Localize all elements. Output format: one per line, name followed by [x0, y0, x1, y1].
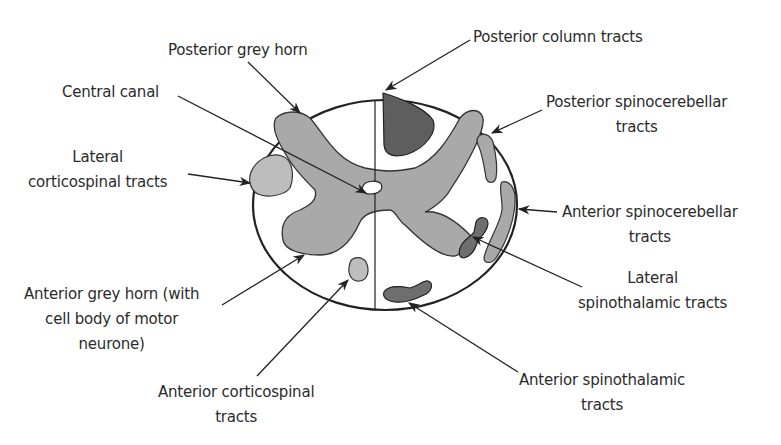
lateral-corticospinal-tract: [250, 155, 293, 196]
label-anterior-spinocerebellar-tracts: Anterior spinocerebellar tracts: [562, 200, 738, 250]
label-anterior-spinothalamic-tracts: Anterior spinothalamic tracts: [519, 368, 685, 418]
label-posterior-spinocerebellar-tracts: Posterior spinocerebellar tracts: [546, 90, 727, 140]
label-lateral-spinothalamic-tracts: Lateral spinothalamic tracts: [578, 266, 727, 316]
label-anterior-corticospinal-tracts: Anterior corticospinal tracts: [158, 380, 314, 430]
arrow-anterior-spinocerebellar: [519, 209, 557, 212]
arrow-lateral-corticospinal: [188, 174, 250, 183]
arrow-posterior-grey-horn: [248, 62, 300, 113]
label-posterior-grey-horn: Posterior grey horn: [168, 38, 308, 63]
label-central-canal: Central canal: [62, 80, 159, 105]
anterior-corticospinal-tract: [349, 258, 368, 281]
arrow-anterior-corticospinal: [257, 280, 348, 376]
label-lateral-corticospinal-tracts: Lateral corticospinal tracts: [28, 145, 167, 195]
label-anterior-grey-horn: Anterior grey horn (with cell body of mo…: [24, 282, 199, 357]
arrow-anterior-spinothalamic: [409, 303, 518, 372]
label-posterior-column-tracts: Posterior column tracts: [473, 25, 643, 50]
arrow-posterior-spinocerebellar: [492, 110, 542, 133]
arrow-posterior-column: [386, 40, 470, 90]
spinal-cord-diagram: Posterior grey horn Central canal Latera…: [0, 0, 781, 445]
